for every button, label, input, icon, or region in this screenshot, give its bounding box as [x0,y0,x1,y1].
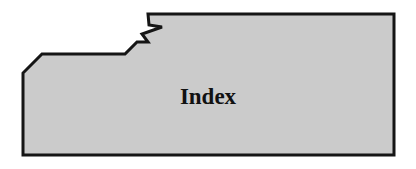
index-label: Index [0,84,416,110]
